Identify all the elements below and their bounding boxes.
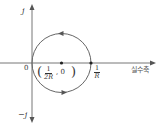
center-label-open-paren: ( — [37, 65, 42, 78]
origin-label: 0 — [24, 65, 28, 72]
circle-bottom-arrow-icon — [62, 90, 68, 95]
center-label-close-paren: ) — [71, 65, 76, 78]
center-label-zero: , 0 — [56, 69, 65, 76]
real-axis-label: 실수축 — [131, 67, 149, 74]
right-point-denominator: R — [95, 73, 100, 80]
right-intersection-point — [89, 61, 92, 64]
imaginary-axis-up-arrow-icon — [30, 4, 35, 10]
imag-negative-label: −j — [18, 111, 27, 119]
real-axis-arrow-icon — [150, 61, 156, 66]
imag-positive-label: j — [22, 7, 24, 15]
center-label-fraction: 1 2R — [44, 66, 53, 80]
right-point-label: 1 R — [94, 65, 100, 79]
circle-top-arrow-icon — [58, 31, 64, 36]
center-label-denominator: 2R — [44, 74, 53, 81]
center-point — [60, 61, 63, 64]
imaginary-axis-down-arrow-icon — [30, 117, 35, 123]
